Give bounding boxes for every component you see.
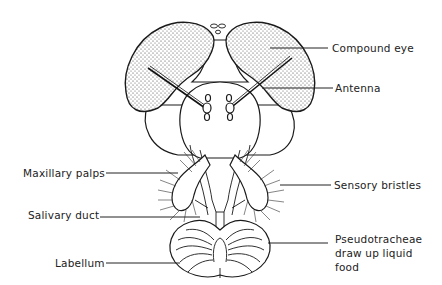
- label-antenna: Antenna: [335, 82, 381, 94]
- fly-head-diagram: Compound eye Antenna Maxillary palps Sen…: [0, 0, 442, 285]
- label-salivary-duct: Salivary duct: [28, 209, 99, 221]
- label-pseudotracheae-2: draw up liquid: [335, 247, 413, 259]
- label-sensory-bristles: Sensory bristles: [334, 179, 421, 191]
- label-labellum: Labellum: [55, 257, 105, 269]
- label-pseudotracheae-1: Pseudotracheae: [335, 233, 422, 245]
- maxillary-palp-left: [158, 150, 210, 222]
- label-pseudotracheae-3: food: [335, 261, 359, 273]
- label-compound-eye: Compound eye: [332, 42, 414, 54]
- labellum: [170, 220, 270, 278]
- label-maxillary-palps: Maxillary palps: [23, 167, 105, 179]
